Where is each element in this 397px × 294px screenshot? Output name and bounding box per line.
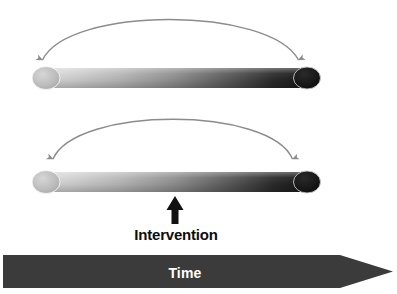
intervention-arrow-icon	[167, 196, 184, 224]
span-arc-bottom	[53, 119, 293, 159]
span-arc-top	[43, 20, 299, 61]
diagram-canvas: Intervention Time	[0, 0, 397, 294]
time-axis-label: Time	[0, 266, 370, 280]
bar-right-cap-top	[294, 67, 321, 89]
trajectory-bar-bottom	[32, 171, 321, 194]
trajectory-bar-top	[32, 67, 321, 90]
bar-left-cap-bottom	[32, 171, 60, 194]
bar-left-cap-top	[32, 67, 60, 90]
intervention-label: Intervention	[0, 227, 352, 242]
diagram-graphics-layer	[0, 0, 397, 294]
bar-right-cap-bottom	[294, 171, 321, 193]
